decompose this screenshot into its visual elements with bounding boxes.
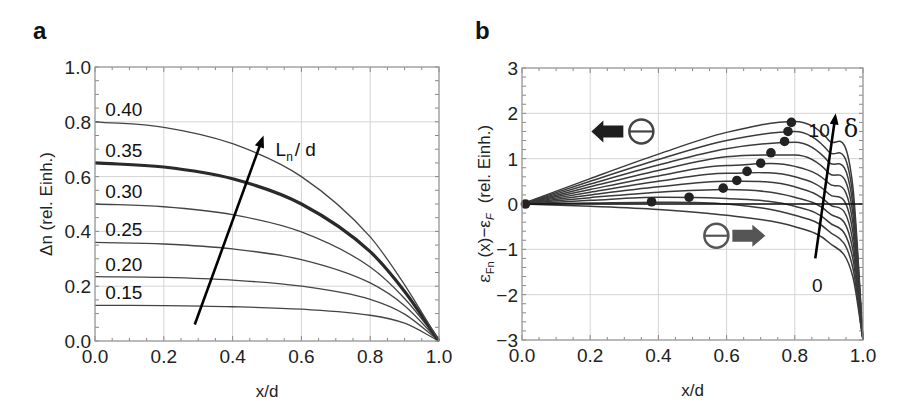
- x-axis-ticks: 0.00.20.40.60.81.0: [82, 346, 452, 367]
- chart-panel-b: b 100δ0.00.20.40.60.81.0−3−2−10123x/dεFn…: [450, 0, 901, 412]
- curve-label: 0.25: [105, 219, 142, 240]
- y-tick-label: 0: [507, 194, 518, 215]
- y-tick-label: 1: [507, 149, 518, 170]
- delta-label-min: 0: [812, 275, 823, 296]
- x-tick-label: 0.2: [577, 345, 603, 366]
- y-axis-ticks: −3−2−10123: [496, 58, 518, 351]
- line-chart-a: 0.150.200.250.300.350.40Ln/ d0.00.20.40.…: [0, 0, 450, 412]
- curve-label: 0.35: [105, 140, 142, 161]
- maximum-marker: [647, 197, 657, 207]
- y-axis-title: εFn(x)−εF(rel. Einh.): [474, 125, 496, 283]
- delta-label-max: 10: [809, 120, 830, 141]
- maximum-marker: [766, 148, 776, 158]
- y-tick-label: −1: [496, 239, 518, 260]
- chart-panel-a: a 0.150.200.250.300.350.40Ln/ d0.00.20.4…: [0, 0, 450, 412]
- maximum-marker: [732, 176, 742, 186]
- y-tick-label: 0.6: [65, 167, 91, 188]
- x-tick-label: 0.6: [713, 345, 739, 366]
- y-tick-label: 0.0: [65, 331, 91, 352]
- x-tick-label: 0.6: [288, 346, 314, 367]
- y-tick-label: 0.8: [65, 112, 91, 133]
- curve-label: 0.15: [105, 282, 142, 303]
- maximum-marker: [684, 192, 694, 202]
- line-chart-b: 100δ0.00.20.40.60.81.0−3−2−10123x/dεFn(x…: [450, 0, 901, 412]
- y-tick-label: 0.2: [65, 276, 91, 297]
- maximum-marker: [756, 158, 766, 168]
- x-axis-title: x/d: [256, 382, 279, 401]
- x-tick-label: 0.8: [782, 345, 808, 366]
- curve-label: 0.40: [105, 99, 142, 120]
- maximum-marker: [742, 167, 752, 177]
- curve-label: 0.30: [105, 181, 142, 202]
- maximum-marker: [787, 118, 797, 128]
- y-tick-label: 2: [507, 103, 518, 124]
- y-tick-label: 1.0: [65, 57, 91, 78]
- maximum-marker: [783, 127, 793, 137]
- y-tick-label: 3: [507, 58, 518, 79]
- x-tick-label: 0.4: [219, 346, 246, 367]
- curve-label: 0.20: [105, 254, 142, 275]
- y-tick-label: −2: [496, 285, 518, 306]
- x-tick-label: 1.0: [850, 345, 876, 366]
- x-tick-label: 0.4: [645, 345, 672, 366]
- y-axis-title: Δn (rel. Einh.): [37, 152, 56, 256]
- y-tick-label: −3: [496, 330, 518, 351]
- x-tick-label: 0.8: [357, 346, 383, 367]
- delta-symbol: δ: [844, 115, 858, 143]
- x-tick-label: 0.2: [151, 346, 177, 367]
- maximum-marker: [718, 183, 728, 193]
- plot-area: [95, 67, 439, 341]
- x-axis-title: x/d: [681, 381, 704, 400]
- y-tick-label: 0.4: [65, 221, 92, 242]
- x-tick-label: 1.0: [426, 346, 452, 367]
- x-axis-ticks: 0.00.20.40.60.81.0: [509, 345, 876, 366]
- maximum-marker: [780, 137, 790, 147]
- y-axis-ticks: 0.00.20.40.60.81.0: [65, 57, 92, 352]
